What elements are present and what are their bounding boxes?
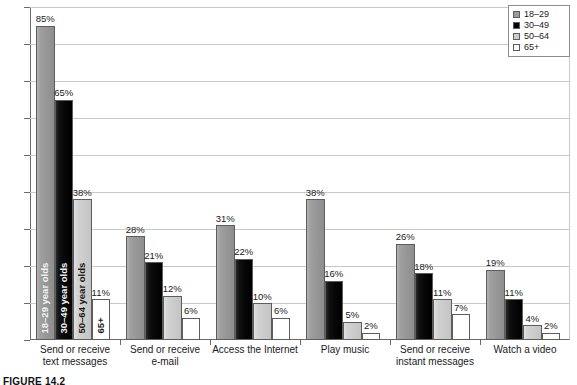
bar — [163, 296, 182, 340]
bar-group: 18–29 year olds85%30–49 year olds65%50–6… — [30, 7, 120, 340]
legend-item-label: 18–29 — [524, 10, 549, 19]
x-axis-category-label: Play music — [300, 344, 390, 356]
legend-item-label: 65+ — [524, 43, 539, 52]
bar-value-label: 65% — [54, 88, 73, 98]
bar-inline-label: 50–64 year olds — [77, 262, 87, 333]
bar-value-label: 16% — [324, 269, 343, 279]
bar-value-label: 31% — [216, 214, 235, 224]
legend-item[interactable]: 65+ — [513, 42, 565, 53]
bar-value-label: 11% — [433, 288, 451, 298]
x-axis-category-line: Send or receive — [390, 344, 480, 356]
bar — [542, 333, 561, 340]
bar-value-label: 18% — [414, 262, 433, 272]
bar: 50–64 year olds — [73, 199, 92, 340]
bar-value-label: 38% — [306, 188, 325, 198]
bar-value-label: 21% — [144, 251, 163, 261]
bar — [505, 299, 524, 340]
legend-item[interactable]: 50–64 — [513, 31, 565, 42]
bar-value-label: 7% — [454, 303, 468, 313]
legend-swatch-icon — [513, 11, 520, 18]
bar-value-label: 5% — [345, 310, 359, 320]
legend-swatch-icon — [513, 44, 520, 51]
bar-group: 38%16%5%2% — [300, 7, 390, 340]
bar — [452, 314, 471, 340]
bar-group: 28%21%12%6% — [120, 7, 210, 340]
bar-value-label: 85% — [36, 14, 55, 24]
bar — [523, 325, 542, 340]
bar — [396, 244, 415, 340]
bar — [433, 299, 452, 340]
x-axis-category-label: Watch a video — [480, 344, 570, 356]
bar: 65+ — [92, 299, 111, 340]
legend-swatch-icon — [513, 33, 520, 40]
figure-caption: FIGURE 14.2 — [3, 376, 65, 385]
bar — [272, 318, 291, 340]
bar-value-label: 38% — [73, 188, 92, 198]
bar-value-label: 2% — [544, 321, 558, 331]
bar-value-label: 26% — [396, 232, 415, 242]
bar — [235, 259, 254, 340]
bar — [126, 236, 145, 340]
bar-value-label: 6% — [184, 306, 198, 316]
bar — [362, 333, 381, 340]
bar-value-label: 11% — [92, 288, 110, 298]
bar — [325, 281, 344, 340]
plot-area: 18–29 year olds85%30–49 year olds65%50–6… — [30, 7, 570, 340]
legend-item-label: 30–49 — [524, 21, 549, 30]
x-axis-category-line: Send or receive — [120, 344, 210, 356]
bar — [216, 225, 235, 340]
bar — [306, 199, 325, 340]
bar-value-label: 6% — [274, 306, 288, 316]
bar — [343, 322, 362, 341]
bar-value-label: 19% — [486, 258, 505, 268]
bar — [182, 318, 201, 340]
legend-swatch-icon — [513, 22, 520, 29]
legend-item[interactable]: 30–49 — [513, 20, 565, 31]
legend-item[interactable]: 18–29 — [513, 9, 565, 20]
bar — [415, 273, 434, 340]
x-axis-category-label: Send or receivee-mail — [120, 344, 210, 367]
bar-value-label: 10% — [253, 292, 272, 302]
bar-inline-label: 65+ — [96, 317, 106, 333]
x-axis-category-line: Access the Internet — [210, 344, 300, 356]
x-axis-category-line: text messages — [30, 356, 120, 368]
bar-value-label: 12% — [163, 284, 182, 294]
x-axis-category-line: Send or receive — [30, 344, 120, 356]
bar — [253, 303, 272, 340]
bar-inline-label: 18–29 year olds — [40, 262, 50, 333]
x-axis-category-line: instant messages — [390, 356, 480, 368]
bar-value-label: 11% — [505, 288, 523, 298]
bar-group: 31%22%10%6% — [210, 7, 300, 340]
chart-legend: 18–2930–4950–6465+ — [508, 5, 570, 57]
bar: 18–29 year olds — [36, 26, 55, 341]
figure-chart: 18–29 year olds85%30–49 year olds65%50–6… — [0, 0, 577, 385]
bar-value-label: 22% — [234, 247, 253, 257]
x-axis-category-label: Access the Internet — [210, 344, 300, 356]
x-axis-category-label: Send or receiveinstant messages — [390, 344, 480, 367]
bar — [145, 262, 164, 340]
y-axis-tick — [24, 340, 30, 341]
legend-item-label: 50–64 — [524, 32, 549, 41]
x-axis-category-line: Watch a video — [480, 344, 570, 356]
bar: 30–49 year olds — [55, 100, 74, 341]
bar — [486, 270, 505, 340]
bar-inline-label: 30–49 year olds — [59, 262, 69, 333]
x-axis-category-line: Play music — [300, 344, 390, 356]
bar-group: 26%18%11%7% — [390, 7, 480, 340]
x-axis-category-label: Send or receivetext messages — [30, 344, 120, 367]
bar-value-label: 28% — [126, 225, 145, 235]
bar-value-label: 2% — [364, 321, 378, 331]
bar-value-label: 4% — [525, 314, 539, 324]
bar-groups: 18–29 year olds85%30–49 year olds65%50–6… — [30, 7, 570, 340]
x-axis-category-line: e-mail — [120, 356, 210, 368]
